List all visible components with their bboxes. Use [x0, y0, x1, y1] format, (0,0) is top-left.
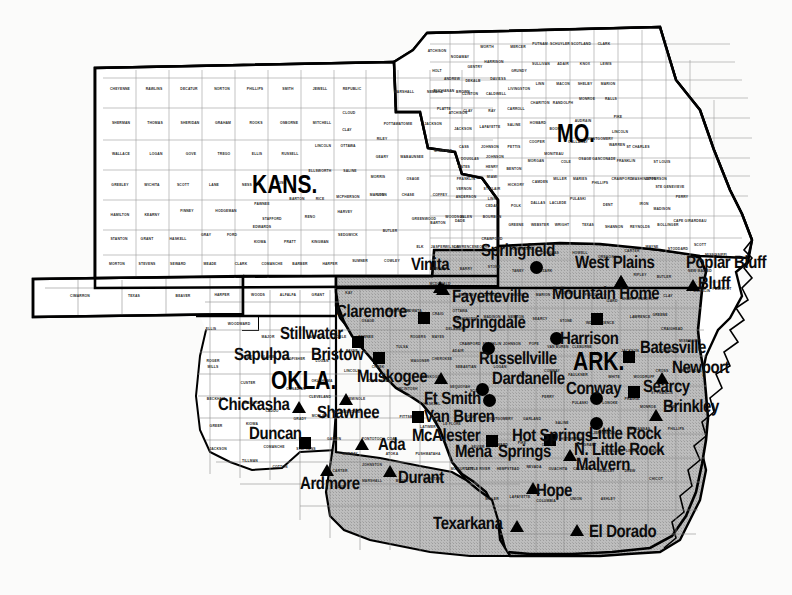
city-label-bristow[interactable]: Bristow [311, 345, 363, 363]
city-label-mountain-home[interactable]: Mountain Home [552, 284, 659, 302]
city-label-stillwater[interactable]: Stillwater [280, 324, 343, 342]
city-label-hot-springs-line2[interactable]: Springs [498, 442, 551, 460]
city-label-west-plains[interactable]: West Plains [575, 253, 655, 271]
city-label-fayetteville[interactable]: Fayetteville [452, 287, 529, 305]
state-label-missouri: MO. [557, 120, 595, 145]
city-label-conway[interactable]: Conway [566, 379, 621, 397]
state-label-arkansas: ARK. [573, 347, 624, 373]
city-label-ada[interactable]: Ada [378, 435, 405, 453]
region-oklahoma-panhandle [33, 276, 243, 317]
city-label-russellville[interactable]: Russellville [479, 349, 557, 367]
city-label-brinkley[interactable]: Brinkley [663, 397, 719, 415]
city-label-shawnee[interactable]: Shawnee [317, 403, 379, 421]
city-label-harrison[interactable]: Harrison [560, 329, 619, 347]
city-label-batesville[interactable]: Batesville [640, 338, 706, 356]
city-marker-muskogee[interactable] [434, 372, 448, 384]
city-marker-brinkley[interactable] [649, 409, 663, 421]
city-marker-ada[interactable] [355, 438, 369, 450]
city-label-duncan[interactable]: Duncan [249, 424, 302, 442]
city-label-poplar-bluff[interactable]: Poplar Bluff [686, 253, 766, 271]
city-marker-texarkana[interactable] [510, 520, 524, 532]
city-label-hope[interactable]: Hope [536, 481, 572, 499]
city-marker-searcy[interactable] [628, 386, 640, 398]
state-label-oklahoma: OKLA. [271, 366, 336, 392]
city-marker-bristow[interactable] [373, 352, 385, 364]
city-label-poplar-bluff-line2[interactable]: Bluff [698, 274, 730, 292]
state-label-kansas: KANS. [252, 170, 317, 196]
city-label-vinita[interactable]: Vinita [411, 255, 449, 273]
city-label-malvern[interactable]: Malvern [576, 455, 630, 473]
city-label-ardmore[interactable]: Ardmore [300, 474, 360, 492]
city-marker-malvern[interactable] [563, 449, 577, 461]
city-marker-ft-smith[interactable] [483, 394, 496, 407]
city-marker-durant[interactable] [383, 465, 397, 477]
city-marker-claremore[interactable] [418, 312, 430, 324]
city-label-claremore[interactable]: Claremore [336, 302, 407, 320]
city-label-ft-smith[interactable]: Ft Smith [424, 389, 481, 407]
city-label-van-buren[interactable]: Van Buren [424, 407, 495, 425]
city-label-newport[interactable]: Newport [672, 358, 729, 376]
city-marker-batesville[interactable] [623, 351, 635, 363]
city-label-mena[interactable]: Mena [455, 442, 492, 460]
city-label-searcy[interactable]: Searcy [643, 377, 690, 395]
overlay-northern-white-states [95, 27, 752, 278]
city-marker-springfield[interactable] [530, 261, 543, 274]
city-marker-van-buren[interactable] [412, 411, 424, 423]
city-label-durant[interactable]: Durant [398, 468, 444, 486]
city-label-springfield[interactable]: Springfield [481, 241, 555, 259]
city-label-dardanelle[interactable]: Dardanelle [492, 369, 565, 387]
city-label-el-dorado[interactable]: El Dorado [589, 522, 656, 540]
map-geometry [0, 0, 792, 595]
city-label-muskogee[interactable]: Muskogee [357, 367, 427, 385]
map-root: CHEYENNERAWLINSDECATURNORTONPHILLIPSSMIT… [0, 0, 792, 595]
city-marker-springdale[interactable] [591, 313, 603, 325]
city-label-sapulpa[interactable]: Sapulpa [234, 345, 290, 363]
city-label-texarkana[interactable]: Texarkana [433, 514, 503, 532]
city-label-springdale[interactable]: Springdale [452, 313, 526, 331]
city-label-chickasha[interactable]: Chickasha [218, 395, 289, 413]
city-marker-fayetteville[interactable] [436, 283, 450, 295]
city-marker-chickasha[interactable] [292, 401, 306, 413]
city-marker-el-dorado[interactable] [570, 524, 584, 536]
